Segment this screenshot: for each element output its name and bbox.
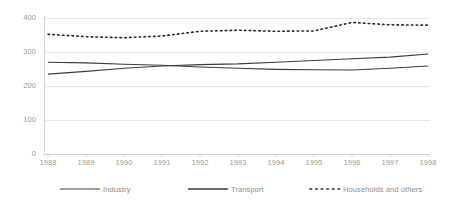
x-tick-label-1997: 1997 <box>373 159 407 167</box>
legend-label-households-and-others[interactable]: Households and others <box>343 185 422 194</box>
x-tick-label-1988: 1988 <box>31 159 65 167</box>
x-tick-label-1991: 1991 <box>145 159 179 167</box>
legend-label-transport[interactable]: Transport <box>231 185 264 194</box>
x-tick-label-1998: 1998 <box>411 159 445 167</box>
y-tick-label-100: 100 <box>10 116 36 124</box>
chart-container: 400 300 200 100 0 1988 1989 1990 1991 19… <box>0 0 452 204</box>
y-tick-label-300: 300 <box>10 48 36 56</box>
x-tick-label-1989: 1989 <box>69 159 103 167</box>
chart-plot-area <box>0 0 452 204</box>
y-tick-label-200: 200 <box>10 82 36 90</box>
series-line-households-and-others <box>48 22 428 37</box>
legend-label-industry[interactable]: Industry <box>103 185 130 194</box>
y-tick-label-0: 0 <box>10 150 36 158</box>
x-tick-label-1996: 1996 <box>335 159 369 167</box>
x-tick-label-1995: 1995 <box>297 159 331 167</box>
x-tick-label-1992: 1992 <box>183 159 217 167</box>
y-tick-label-400: 400 <box>10 14 36 22</box>
x-tick-label-1994: 1994 <box>259 159 293 167</box>
x-tick-label-1990: 1990 <box>107 159 141 167</box>
x-tick-label-1993: 1993 <box>221 159 255 167</box>
